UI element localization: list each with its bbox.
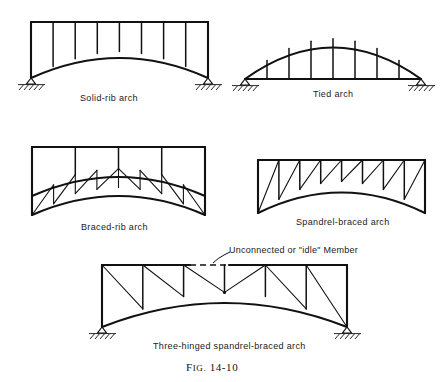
- label-three-hinged-spandrel-braced-arch: Three-hinged spandrel-braced arch: [153, 341, 306, 351]
- diagram-spandrel-braced-arch: [258, 160, 425, 213]
- support-left-solid-rib: [18, 78, 45, 90]
- label-spandrel-braced-arch: Spandrel-braced arch: [296, 217, 390, 227]
- label-tied-arch: Tied arch: [313, 89, 353, 99]
- support-right-three-hinged: [334, 327, 361, 339]
- figure-number-value: 14-10: [210, 361, 239, 373]
- arch-diagrams-svg: [0, 0, 447, 382]
- annotation-idle-member: Unconnected or "idle" Member: [229, 245, 358, 255]
- figure-number: FIG. 14-10: [186, 361, 238, 373]
- figure-sheet: Solid-rib arch Tied arch Braced-rib arch…: [0, 0, 447, 382]
- support-right-tied-arch: [408, 79, 435, 91]
- diagram-braced-rib-arch: [32, 147, 205, 215]
- figure-number-smallcaps: IG.: [193, 363, 207, 373]
- label-solid-rib-arch: Solid-rib arch: [80, 93, 138, 103]
- diagram-tied-arch: [232, 39, 435, 91]
- figure-number-prefix: F: [186, 361, 193, 373]
- support-right-solid-rib: [195, 78, 222, 90]
- diagram-solid-rib-arch: [18, 22, 222, 90]
- support-left-three-hinged: [89, 327, 116, 339]
- diagram-three-hinged-spandrel-braced-arch: [89, 252, 361, 339]
- label-braced-rib-arch: Braced-rib arch: [81, 222, 148, 232]
- support-left-tied-arch: [232, 79, 259, 91]
